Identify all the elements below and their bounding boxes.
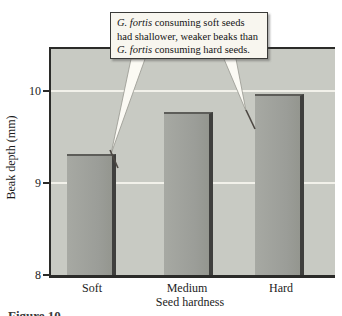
y-tick-label-10: 10: [3, 84, 41, 99]
x-tick-label-hard: Hard: [246, 281, 316, 296]
y-axis-title: Beak depth (mm): [4, 103, 19, 213]
y-tick-9: [43, 182, 50, 184]
callout-line-1: G. fortis consuming soft seeds: [117, 16, 261, 30]
x-axis-title: Seed hardness: [120, 295, 260, 310]
bar-hard: [255, 94, 304, 275]
gridline-10: [51, 90, 335, 92]
callout-line-2: had shallower, weaker beaks than: [117, 30, 261, 44]
figure-10-beak-depth-chart: 10 9 8 Beak depth (mm) Soft Medium Hard …: [0, 0, 342, 316]
callout-text-1: consuming soft seeds: [152, 17, 244, 28]
callout-line-3: G. fortis consuming hard seeds.: [117, 43, 261, 57]
y-tick-8: [43, 274, 50, 276]
y-tick-10: [43, 90, 50, 92]
plot-area: [49, 47, 335, 278]
figure-caption-clipped: Figure 10.: [8, 308, 64, 316]
x-tick-label-soft: Soft: [57, 281, 127, 296]
x-tick-label-medium: Medium: [152, 281, 222, 296]
callout-species-1: G. fortis: [117, 17, 152, 28]
y-tick-label-8: 8: [3, 268, 41, 283]
bar-medium: [164, 112, 213, 275]
bar-soft: [67, 154, 116, 275]
callout-text-3: consuming hard seeds.: [152, 44, 250, 55]
annotation-callout: G. fortis consuming soft seeds had shall…: [110, 12, 268, 59]
callout-species-3: G. fortis: [117, 44, 152, 55]
